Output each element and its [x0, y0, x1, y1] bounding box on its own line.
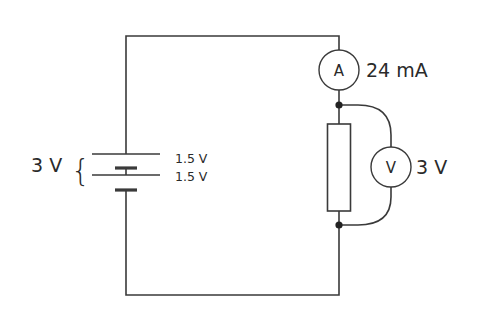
ammeter: A 24 mA	[319, 50, 428, 90]
battery-total-voltage: 3 V	[31, 154, 62, 176]
battery-brace: {	[71, 153, 90, 188]
junction-dot-top	[335, 101, 342, 108]
resistor	[328, 124, 351, 211]
ammeter-reading: 24 mA	[366, 59, 428, 81]
battery-cell-2-label: 1.5 V	[175, 169, 208, 184]
voltmeter-symbol: V	[386, 159, 397, 177]
voltmeter-reading: 3 V	[416, 156, 447, 178]
ammeter-symbol: A	[334, 62, 345, 80]
voltmeter: V 3 V	[371, 147, 447, 187]
battery-cell-1-label: 1.5 V	[175, 151, 208, 166]
circuit-wires	[126, 36, 339, 295]
wire-bottom	[126, 190, 339, 295]
wire-top-left	[126, 36, 339, 154]
circuit-diagram: A 24 mA V 3 V 3 V { 1.5 V 1.5 V	[0, 0, 477, 318]
junction-dot-bottom	[335, 221, 342, 228]
